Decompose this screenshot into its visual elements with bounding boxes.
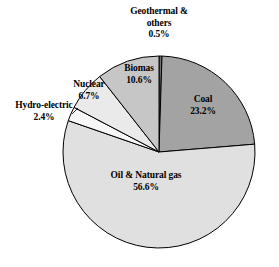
pie-chart: Geothermal & others 0.5% Coal 23.2% Oil … xyxy=(0,0,279,267)
slice-label-name: Biomas xyxy=(108,63,170,75)
slice-label-value: 23.2% xyxy=(168,106,238,118)
slice-label-name: Geothermal & xyxy=(94,6,224,18)
slice-label-biomas: Biomas 10.6% xyxy=(108,63,170,86)
slice-label-name: Coal xyxy=(168,94,238,106)
slice-label-name: Oil & Natural gas xyxy=(88,170,204,182)
slice-label-value: 10.6% xyxy=(108,75,170,87)
slice-label-coal: Coal 23.2% xyxy=(168,94,238,117)
slice-label-name-line2: others xyxy=(94,18,224,30)
slice-label-oil-natural-gas: Oil & Natural gas 56.6% xyxy=(88,170,204,193)
slice-label-value: 0.5% xyxy=(94,29,224,41)
slice-label-geothermal-others: Geothermal & others 0.5% xyxy=(94,6,224,41)
slice-label-value: 2.4% xyxy=(2,112,86,124)
slice-label-value: 6.7% xyxy=(60,91,118,103)
slice-label-value: 56.6% xyxy=(88,182,204,194)
slice-label-hydro-electric: Hydro-electric 2.4% xyxy=(2,100,86,123)
